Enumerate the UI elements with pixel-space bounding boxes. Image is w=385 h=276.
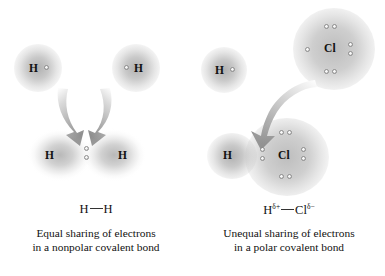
caption-nonpolar-line-1: Equal sharing of electrons: [0, 226, 192, 240]
caption-nonpolar-line-2: in a nonpolar covalent bond: [0, 240, 192, 254]
lone-electron-chlorine-top-right: [332, 24, 337, 29]
atom-symbol-hcl-hydrogen: H: [223, 149, 232, 161]
valence-electron-hydrogen-right: [124, 65, 129, 70]
shared-electron-hcl-upper: [260, 147, 265, 152]
lone-electron-chlorine-bottom-right: [332, 69, 337, 74]
caption-polar-line-1: Unequal sharing of electrons: [193, 226, 385, 240]
valence-electron-hydrogen-left: [44, 65, 49, 70]
formula-hcl-left-atom: H: [263, 203, 272, 217]
formula-hcl-right-atom: Cl: [295, 203, 307, 217]
atom-symbol-chlorine: Cl: [324, 42, 336, 54]
formula-hcl: Hδ+Clδ−: [193, 202, 385, 218]
shared-electron-hcl-lower: [260, 156, 265, 161]
formula-hcl-bond-line: [281, 209, 294, 210]
caption-polar: Unequal sharing of electrons in a polar …: [193, 226, 385, 255]
lone-electron-hcl-right-lower: [301, 156, 306, 161]
panel-nonpolar-covalent-bond: H H H: [0, 0, 192, 276]
electron-cloud-h2-right-lobe: [82, 128, 146, 182]
atom-symbol-h2-left: H: [45, 149, 54, 161]
lone-electron-hcl-bottom-right: [287, 174, 292, 179]
formula-hcl-left-charge: δ+: [272, 202, 280, 211]
lone-electron-hcl-top-left: [279, 130, 284, 135]
lone-electron-chlorine-top-left: [324, 24, 329, 29]
atom-symbol-hydrogen-polar: H: [215, 64, 224, 76]
shared-electron-h2-lower: [84, 155, 89, 160]
formula-h2-left-atom: H: [79, 202, 88, 216]
lone-electron-chlorine-right-upper: [348, 42, 353, 47]
formula-h2-right-atom: H: [104, 202, 113, 216]
atom-symbol-hydrogen-left: H: [29, 62, 38, 74]
caption-polar-line-2: in a polar covalent bond: [193, 240, 385, 254]
formula-h2-bond-line: [90, 208, 103, 209]
lone-electron-hcl-right-upper: [301, 147, 306, 152]
lone-electron-hcl-top-right: [287, 130, 292, 135]
shared-electron-h2-upper: [84, 146, 89, 151]
panel-polar-covalent-bond: H Cl H C: [193, 0, 385, 276]
atom-symbol-hydrogen-right: H: [134, 62, 143, 74]
formula-h2: HH: [0, 202, 192, 217]
atom-symbol-h2-right: H: [118, 149, 127, 161]
lone-electron-chlorine-right-lower: [348, 51, 353, 56]
unpaired-electron-chlorine-left: [305, 47, 310, 52]
valence-electron-hydrogen-polar: [230, 67, 235, 72]
lone-electron-chlorine-bottom-left: [324, 69, 329, 74]
lone-electron-hcl-bottom-left: [279, 174, 284, 179]
caption-nonpolar: Equal sharing of electrons in a nonpolar…: [0, 226, 192, 255]
formula-hcl-right-charge: δ−: [307, 202, 315, 211]
atom-symbol-hcl-chlorine: Cl: [278, 149, 290, 161]
